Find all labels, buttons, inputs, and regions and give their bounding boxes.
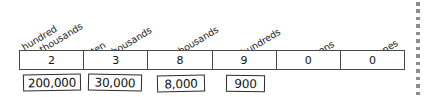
expanded-form-value: 30,000 bbox=[94, 75, 135, 90]
digit-value: 2 bbox=[48, 54, 55, 67]
dot bbox=[416, 47, 420, 51]
expanded-form-value: 8,000 bbox=[164, 76, 198, 91]
expanded-form-box[interactable]: 30,000 bbox=[88, 73, 142, 91]
dot bbox=[416, 92, 420, 96]
expanded-form-box[interactable]: 200,000 bbox=[23, 73, 81, 91]
place-value-cell-ten-thousands[interactable]: 3 bbox=[84, 51, 148, 69]
place-value-cell-hundreds[interactable]: 9 bbox=[213, 51, 277, 69]
dot bbox=[416, 69, 420, 73]
expanded-form-row: 200,000 30,000 8,000 900 bbox=[0, 70, 429, 97]
place-value-cell-ones[interactable]: 0 bbox=[341, 51, 404, 69]
dot bbox=[416, 32, 420, 36]
digit-value: 3 bbox=[112, 54, 119, 67]
place-value-headers: hundred thousands ten thousands thousand… bbox=[0, 0, 429, 50]
dot bbox=[416, 39, 420, 43]
dotted-divider bbox=[416, 0, 420, 97]
place-value-worksheet: hundred thousands ten thousands thousand… bbox=[0, 0, 429, 97]
dot bbox=[416, 62, 420, 66]
digit-value: 9 bbox=[241, 54, 248, 67]
dot bbox=[416, 2, 420, 6]
place-value-cell-thousands[interactable]: 8 bbox=[148, 51, 212, 69]
dot bbox=[416, 77, 420, 81]
expanded-form-box[interactable]: 900 bbox=[226, 75, 265, 93]
dot bbox=[416, 84, 420, 88]
dot bbox=[416, 54, 420, 58]
place-value-cell-hundred-thousands[interactable]: 2 bbox=[20, 51, 84, 69]
digit-value: 8 bbox=[176, 54, 183, 67]
place-value-cell-tens[interactable]: 0 bbox=[277, 51, 341, 69]
dot bbox=[416, 17, 420, 21]
place-value-table: 2 3 8 9 0 0 bbox=[19, 50, 405, 70]
expanded-form-value: 200,000 bbox=[28, 75, 77, 90]
expanded-form-box[interactable]: 8,000 bbox=[157, 74, 205, 92]
digit-value: 0 bbox=[305, 54, 312, 67]
expanded-form-value: 900 bbox=[234, 76, 257, 90]
digit-value: 0 bbox=[369, 54, 376, 67]
dot bbox=[416, 9, 420, 13]
dot bbox=[416, 24, 420, 28]
